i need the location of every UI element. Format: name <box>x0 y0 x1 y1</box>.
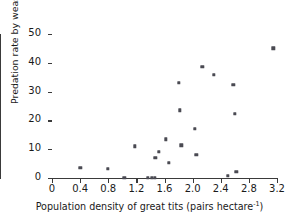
y-axis-title: Predation rate by weasels on great tits … <box>8 0 22 104</box>
x-tick-label: 1.6 <box>157 183 173 194</box>
data-point <box>153 176 156 179</box>
x-tick-label: 2.0 <box>185 183 201 194</box>
x-tick-mark <box>108 179 109 183</box>
y-tick-label-text: 0 <box>35 171 41 182</box>
x-axis-title-tail: ) <box>260 201 264 212</box>
y-tick-label-text: 30 <box>28 85 41 96</box>
x-tick-mark <box>52 179 53 183</box>
x-tick-label: 2.4 <box>213 183 229 194</box>
x-axis-title-main: Population density of great tits (pairs … <box>36 201 254 212</box>
x-tick-label: 0 <box>49 183 55 194</box>
y-tick-label-text: 40 <box>28 56 41 67</box>
x-tick-mark <box>80 179 81 183</box>
y-tick-label-text: 20 <box>28 113 41 124</box>
x-tick-mark <box>277 179 278 183</box>
plot-area <box>52 34 277 178</box>
y-tick-label-text: 10 <box>28 142 41 153</box>
x-tick-label: 3.2 <box>269 183 285 194</box>
x-tick-label: 2.8 <box>241 183 257 194</box>
y-axis-line <box>0 34 1 179</box>
scatter-chart-figure: Predation rate by weasels on great tits … <box>0 0 299 223</box>
x-tick-mark <box>165 179 166 183</box>
data-point <box>123 176 126 179</box>
x-axis-title: Population density of great tits (pairs … <box>0 200 299 212</box>
x-tick-label: 1.2 <box>128 183 144 194</box>
x-tick-label: 0.8 <box>100 183 116 194</box>
x-tick-mark <box>193 179 194 183</box>
data-point <box>146 176 149 179</box>
x-tick-label: 0.4 <box>72 183 88 194</box>
x-tick-mark <box>249 179 250 183</box>
x-tick-mark <box>136 179 137 183</box>
x-tick-mark <box>221 179 222 183</box>
y-tick-label-text: 50 <box>28 27 41 38</box>
